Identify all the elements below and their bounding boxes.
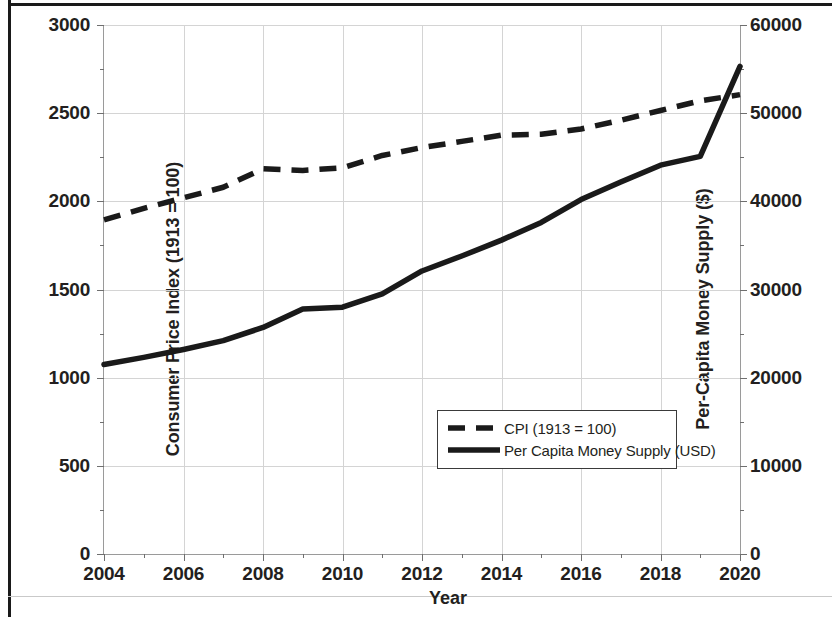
series-line-money-supply xyxy=(104,66,740,364)
series-plot xyxy=(104,25,740,554)
x-axis-title: Year xyxy=(32,588,832,609)
y-axis-left-tick-label: 1000 xyxy=(4,368,90,387)
y-axis-right-tick-label: 20000 xyxy=(750,368,832,387)
x-axis-tick-label: 2012 xyxy=(377,563,467,585)
axis-tick-major xyxy=(740,378,747,379)
legend-label-cpi: CPI (1913 = 100) xyxy=(504,420,616,437)
axis-tick-minor xyxy=(382,554,383,558)
axis-tick-major xyxy=(740,466,747,467)
axis-tick-major xyxy=(581,554,582,561)
axis-tick-major xyxy=(502,554,503,561)
chart-figure: Consumer Price Index (1913 = 100) Per-Ca… xyxy=(0,0,832,617)
axis-tick-major xyxy=(104,554,105,561)
y-axis-left-tick-label: 2000 xyxy=(4,191,90,210)
axis-tick-minor xyxy=(223,554,224,558)
axis-tick-major xyxy=(97,201,104,202)
legend-swatch-solid-icon xyxy=(446,443,502,457)
axis-tick-major xyxy=(97,290,104,291)
y-axis-right-tick-label: 60000 xyxy=(750,15,832,34)
axis-tick-minor xyxy=(700,554,701,558)
axis-tick-minor xyxy=(740,334,744,335)
axis-tick-major xyxy=(740,554,747,555)
axis-tick-major xyxy=(661,554,662,561)
y-axis-left-tick-label: 3000 xyxy=(4,15,90,34)
axis-tick-major xyxy=(343,554,344,561)
axis-tick-major xyxy=(740,290,747,291)
y-axis-left-tick-label: 0 xyxy=(4,544,90,563)
axis-tick-major xyxy=(97,466,104,467)
axis-tick-major xyxy=(740,554,741,561)
axis-tick-minor xyxy=(541,554,542,558)
y-axis-right-tick-label: 40000 xyxy=(750,191,832,210)
series-line-cpi xyxy=(104,95,740,220)
axis-tick-minor xyxy=(462,554,463,558)
axis-tick-major xyxy=(740,201,747,202)
axis-tick-minor xyxy=(621,554,622,558)
axis-tick-major xyxy=(97,113,104,114)
x-axis-tick-label: 2004 xyxy=(59,563,149,585)
legend-entry-cpi: CPI (1913 = 100) xyxy=(446,417,668,439)
axis-tick-major xyxy=(97,378,104,379)
y-axis-left-tick-label: 2500 xyxy=(4,103,90,122)
y-axis-left-tick-label: 1500 xyxy=(4,280,90,299)
legend-entry-money-supply: Per Capita Money Supply (USD) xyxy=(446,439,668,461)
y-axis-right-tick-label: 0 xyxy=(750,544,832,563)
axis-tick-minor xyxy=(303,554,304,558)
x-axis-tick-label: 2006 xyxy=(139,563,229,585)
legend-label-money-supply: Per Capita Money Supply (USD) xyxy=(504,442,716,459)
x-axis-tick-label: 2010 xyxy=(298,563,388,585)
axis-tick-major xyxy=(422,554,423,561)
y-axis-right-tick-label: 30000 xyxy=(750,280,832,299)
chart-legend: CPI (1913 = 100) Per Capita Money Supply… xyxy=(437,410,677,469)
axis-tick-minor xyxy=(740,510,744,511)
plot-area xyxy=(104,25,740,554)
y-axis-left-tick-label: 500 xyxy=(4,456,90,475)
axis-tick-major xyxy=(97,25,104,26)
axis-tick-major xyxy=(740,113,747,114)
axis-tick-major xyxy=(184,554,185,561)
axis-tick-major xyxy=(740,25,747,26)
x-axis-tick-label: 2020 xyxy=(695,563,785,585)
page-border-top xyxy=(8,3,832,6)
y-axis-right-tick-label: 50000 xyxy=(750,103,832,122)
axis-tick-minor xyxy=(144,554,145,558)
x-axis-tick-label: 2016 xyxy=(536,563,626,585)
legend-swatch-dashed-icon xyxy=(446,421,502,435)
y-axis-right-tick-label: 10000 xyxy=(750,456,832,475)
axis-tick-major xyxy=(263,554,264,561)
x-axis-tick-label: 2018 xyxy=(616,563,706,585)
page-border-left xyxy=(8,0,11,617)
axis-tick-minor xyxy=(740,157,744,158)
axis-tick-major xyxy=(97,554,104,555)
x-axis-tick-label: 2014 xyxy=(457,563,547,585)
x-axis-tick-label: 2008 xyxy=(218,563,308,585)
axis-tick-minor xyxy=(740,422,744,423)
axis-tick-minor xyxy=(740,245,744,246)
